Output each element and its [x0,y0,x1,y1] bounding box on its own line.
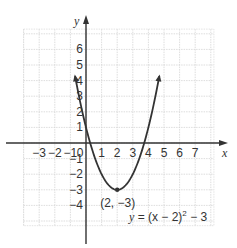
y-tick-label: 5 [76,58,83,72]
vertex-point [115,188,119,192]
equation-label: y = (x − 2)2 − 3 [128,209,207,224]
x-tick-label: 6 [176,146,183,160]
x-tick-label: 1 [98,146,105,160]
equation-body: = (x − 2) [134,210,182,224]
x-tick-label: 5 [161,146,168,160]
y-tick-label: 6 [76,42,83,56]
x-tick-label: 2 [114,146,121,160]
y-tick-label: 1 [76,120,83,134]
x-tick-label: −2 [48,146,62,160]
vertex-label: (2, −3) [100,196,135,210]
x-tick-label: 3 [129,146,136,160]
y-axis-arrow-icon [83,15,89,24]
curve-arrow-icon [155,74,161,81]
equation-tail: − 3 [187,210,208,224]
x-tick-label: −3 [32,146,46,160]
y-tick-label: −4 [69,198,83,212]
x-axis-label: x [221,146,228,160]
parabola-graph: −3−2−101234567654321−1−2−3−4 x y (2, −3)… [0,0,237,248]
y-tick-label: −1 [69,152,83,166]
y-tick-label: −3 [69,183,83,197]
x-tick-label: 7 [192,146,199,160]
y-axis-label: y [73,14,80,28]
x-tick-label: 4 [145,146,152,160]
y-tick-label: −2 [69,167,83,181]
